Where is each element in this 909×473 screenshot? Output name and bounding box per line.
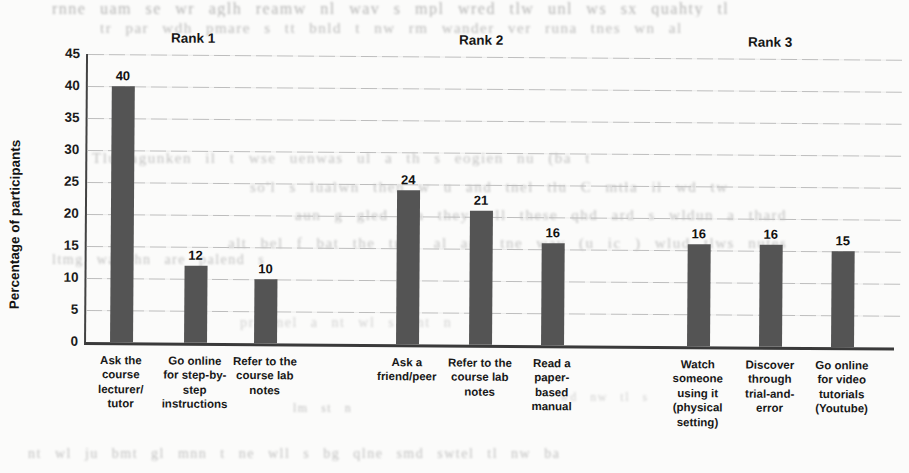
gridline [88, 86, 902, 93]
bar-value-label: 16 [753, 227, 789, 242]
y-tick-label: 40 [44, 78, 80, 94]
category-label: Go online for video tutorials (Youtube) [798, 358, 886, 416]
rank-header: Rank 1 [123, 30, 263, 46]
y-tick-label: 25 [43, 174, 79, 190]
y-tick-label: 45 [44, 46, 80, 62]
bar-value-label: 15 [825, 233, 861, 248]
gridline [87, 214, 901, 221]
y-tick-label: 35 [44, 110, 80, 126]
y-axis-title: Percentage of participants [7, 140, 23, 310]
bar-value-label: 16 [681, 226, 717, 241]
bar-value-label: 12 [178, 248, 214, 263]
bar-value-label: 24 [390, 172, 426, 187]
y-tick-label: 30 [43, 142, 79, 158]
category-label: Refer to the course lab notes [221, 354, 309, 398]
bar [687, 244, 711, 346]
y-tick-label: 5 [42, 302, 78, 318]
gridline [87, 182, 901, 189]
bar [469, 211, 493, 345]
bar [541, 243, 565, 345]
plot-area: 05101520253035404540Ask the course lectu… [84, 54, 896, 351]
y-tick-label: 10 [42, 270, 78, 286]
category-label: Read a paper- based manual [508, 356, 596, 414]
scanned-figure-page: rnne uam se wr aglh reamw nl wav s mpl w… [0, 0, 909, 473]
bar-value-label: 40 [105, 68, 141, 83]
bar [184, 266, 208, 343]
bar-value-label: 21 [463, 193, 499, 208]
y-tick-label: 0 [42, 334, 78, 350]
rank-header: Rank 3 [700, 34, 840, 50]
gridline [88, 54, 902, 61]
bar [254, 279, 277, 343]
bar [831, 251, 855, 347]
bar [110, 86, 135, 342]
bar [759, 245, 783, 347]
gridline [88, 118, 902, 125]
gridline [87, 150, 901, 157]
bar-value-label: 16 [535, 225, 571, 240]
y-tick-label: 15 [43, 238, 79, 254]
bar-value-label: 10 [247, 261, 283, 276]
rank-header: Rank 2 [411, 32, 551, 48]
bar [396, 190, 420, 344]
y-tick-label: 20 [43, 206, 79, 222]
bar-chart: Percentage of participants 0510152025303… [0, 0, 909, 473]
